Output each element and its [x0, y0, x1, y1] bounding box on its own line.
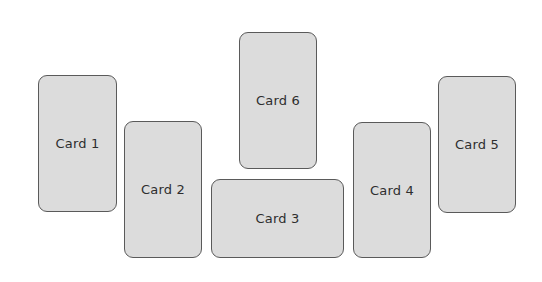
card-3[interactable]: Card 3	[211, 179, 344, 258]
card-1-label: Card 1	[55, 136, 99, 151]
card-6[interactable]: Card 6	[239, 32, 317, 169]
card-5-label: Card 5	[455, 137, 499, 152]
card-3-label: Card 3	[255, 211, 299, 226]
card-4-label: Card 4	[370, 183, 414, 198]
card-6-label: Card 6	[256, 93, 300, 108]
card-4[interactable]: Card 4	[353, 122, 431, 258]
card-2-label: Card 2	[141, 182, 185, 197]
card-5[interactable]: Card 5	[438, 76, 516, 213]
card-1[interactable]: Card 1	[38, 75, 117, 212]
card-2[interactable]: Card 2	[124, 121, 202, 258]
